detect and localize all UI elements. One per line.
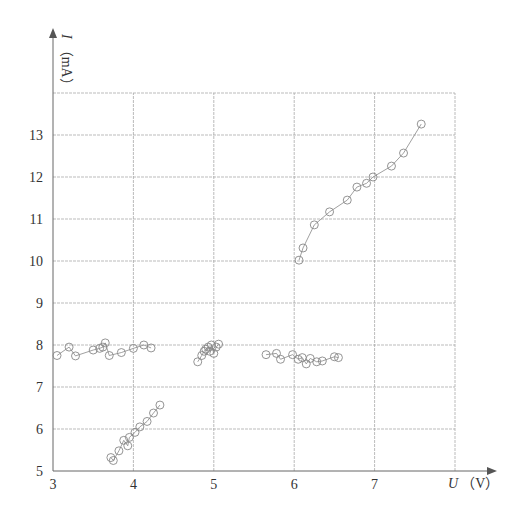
y-tick-label: 8: [36, 338, 43, 353]
y-tick-label: 5: [36, 464, 43, 479]
series-mid-branch-center: [194, 340, 223, 366]
y-tick-label: 9: [36, 296, 43, 311]
grid-lines: [53, 93, 455, 471]
series-line: [111, 405, 160, 460]
series-line: [299, 124, 421, 260]
x-tick-labels: 34567: [50, 477, 379, 492]
y-tick-label: 6: [36, 422, 43, 437]
x-axis-arrow-icon: [487, 467, 497, 475]
y-tick-label: 7: [36, 380, 43, 395]
y-tick-label: 12: [29, 170, 43, 185]
svg-text:I（mA）: I（mA）: [59, 33, 74, 92]
series-low-branch: [107, 401, 164, 464]
x-tick-label: 5: [210, 477, 217, 492]
y-tick-label: 10: [29, 254, 43, 269]
y-axis-label: I（mA）: [59, 33, 74, 92]
series-high-branch: [295, 120, 425, 264]
y-tick-labels: 5678910111213: [29, 128, 43, 479]
y-axis-arrow-icon: [49, 28, 57, 38]
series-mid-branch-right: [262, 349, 342, 368]
iv-scatter-chart: 34567 5678910111213 U（V） I（mA）: [0, 0, 525, 514]
data-series: [53, 120, 425, 464]
y-tick-label: 13: [29, 128, 43, 143]
series-mid-branch-left: [53, 339, 155, 360]
x-axis-label: U（V）: [448, 476, 499, 491]
x-tick-label: 6: [291, 477, 298, 492]
x-tick-label: 7: [371, 477, 378, 492]
axes: [49, 28, 497, 475]
y-tick-label: 11: [30, 212, 43, 227]
x-tick-label: 3: [50, 477, 57, 492]
x-tick-label: 4: [130, 477, 137, 492]
